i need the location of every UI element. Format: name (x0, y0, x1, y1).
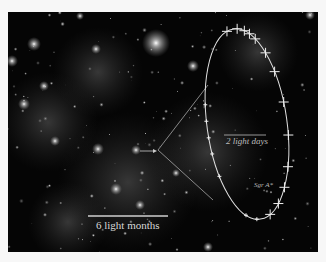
star (43, 116, 48, 121)
star (307, 225, 309, 227)
star (127, 71, 129, 73)
star (177, 90, 179, 92)
star (65, 84, 66, 85)
star (249, 177, 251, 179)
star (60, 22, 65, 27)
star (211, 221, 213, 223)
star (27, 96, 29, 98)
orbit-data-point (279, 97, 289, 107)
star (211, 130, 215, 134)
star (143, 101, 146, 104)
star (130, 75, 133, 78)
star (188, 169, 191, 172)
star (98, 41, 100, 43)
star (283, 172, 285, 174)
star (301, 12, 303, 14)
star (143, 212, 146, 215)
star (88, 67, 92, 71)
star (142, 29, 170, 57)
star (147, 188, 149, 190)
star (160, 179, 164, 183)
star (43, 213, 47, 217)
star (172, 169, 180, 177)
star (232, 88, 233, 89)
star (59, 201, 62, 204)
star (50, 82, 54, 86)
star (197, 114, 200, 117)
star (44, 85, 47, 88)
star (114, 163, 116, 165)
star (180, 147, 182, 149)
star (77, 146, 80, 149)
star (119, 71, 121, 73)
star (184, 190, 188, 194)
star (132, 64, 135, 67)
star (215, 48, 218, 51)
star (265, 190, 269, 194)
orbit-data-point (273, 199, 283, 209)
scale-label-light-days: 2 light days (226, 136, 268, 146)
star (179, 17, 181, 19)
star (19, 199, 24, 204)
star (81, 223, 84, 226)
star-field-image: 6 light months 2 light days Sgr A* (8, 12, 318, 252)
star (210, 29, 213, 32)
star (58, 12, 62, 15)
star (93, 152, 95, 154)
star (69, 137, 71, 139)
scale-label-light-months: 6 light months (96, 219, 160, 231)
star (99, 103, 103, 107)
star (12, 85, 15, 88)
star (229, 164, 231, 166)
star (291, 159, 295, 163)
star (269, 191, 272, 194)
star (300, 83, 304, 87)
star (142, 28, 147, 33)
orbit-data-point (279, 182, 289, 192)
star (202, 100, 204, 102)
star (139, 178, 143, 182)
star (116, 95, 117, 96)
star (50, 136, 60, 146)
star (14, 93, 17, 96)
star (152, 139, 156, 143)
star (32, 46, 34, 48)
star (82, 239, 84, 241)
star (172, 209, 176, 213)
star (205, 168, 207, 170)
star (53, 51, 55, 53)
star (190, 110, 192, 112)
star (310, 247, 312, 249)
star (27, 37, 41, 51)
star (164, 109, 168, 113)
star (147, 143, 151, 147)
star (191, 45, 195, 49)
star (36, 61, 40, 65)
star (91, 44, 101, 54)
star (173, 78, 175, 80)
star (246, 187, 250, 191)
star (156, 111, 157, 112)
star (175, 248, 178, 251)
star (187, 60, 199, 72)
star (24, 72, 27, 75)
star (110, 183, 122, 195)
star (113, 179, 116, 182)
star (45, 200, 49, 204)
star (226, 15, 228, 17)
star (148, 242, 152, 246)
star (92, 234, 95, 237)
star (210, 13, 211, 14)
star (76, 12, 84, 20)
star (109, 134, 110, 135)
star (140, 171, 145, 176)
star (110, 18, 111, 19)
star (160, 23, 162, 25)
star (40, 130, 43, 133)
star (23, 95, 25, 97)
star (202, 105, 206, 109)
star (214, 12, 216, 14)
star (21, 109, 25, 113)
star (15, 145, 19, 149)
star (145, 133, 146, 134)
